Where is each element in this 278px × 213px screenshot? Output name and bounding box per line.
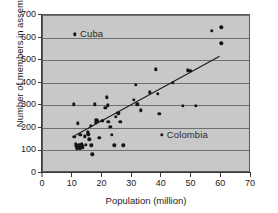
scatter-plot-figure: Number of members in assembly 0100200300… [0,0,278,213]
plot-area: CubaColombia [42,14,250,172]
x-tick-0: 0 [39,173,44,188]
x-tick-60: 60 [215,173,225,188]
x-axis-tick-labels: 010203040506070 [42,173,250,187]
y-tick-300: 300 [21,99,42,109]
x-tick-30: 30 [126,173,136,188]
x-tick-70: 70 [245,173,255,188]
x-tick-20: 20 [96,173,106,188]
y-tick-500: 500 [21,54,42,64]
regression-line [43,15,249,171]
y-tick-700: 700 [21,9,42,19]
y-tick-600: 600 [21,32,42,42]
annotation-colombia: Colombia [167,129,208,140]
x-axis-title: Population (million) [42,195,250,206]
x-tick-50: 50 [186,173,196,188]
y-tick-400: 400 [21,77,42,87]
y-tick-200: 200 [21,122,42,132]
x-tick-40: 40 [156,173,166,188]
annotation-cuba: Cuba [80,28,103,39]
x-tick-10: 10 [67,173,77,188]
y-axis-tick-labels: 0100200300400500600700 [0,14,42,172]
y-tick-100: 100 [21,144,42,154]
